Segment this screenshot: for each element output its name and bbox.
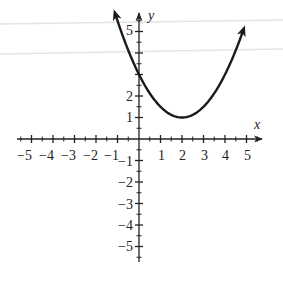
x-tick-label: −4	[39, 148, 54, 163]
x-axis-label: x	[253, 117, 261, 132]
y-tick-label: 5	[126, 23, 133, 38]
y-tick-label: −5	[118, 239, 133, 254]
x-tick-label: 4	[222, 148, 229, 163]
y-tick-label: 2	[126, 89, 133, 104]
x-tick-label: 1	[158, 148, 165, 163]
x-tick-label: 2	[179, 148, 186, 163]
parabola-curve	[115, 14, 243, 117]
y-tick-label: 1	[126, 110, 133, 125]
y-tick-label: −1	[118, 154, 133, 169]
y-axis-label: y	[146, 8, 155, 23]
x-tick-label: −2	[83, 148, 98, 163]
parabola-graph: x y −5 −4 −3 −2 −1 1 2 3 4 5 5 2 1 −1 −2…	[0, 0, 283, 287]
x-tick-label: 3	[201, 148, 208, 163]
x-tick-label: 5	[244, 148, 251, 163]
y-tick-label: −2	[118, 175, 133, 190]
x-tick-label: −1	[104, 148, 119, 163]
x-tick-label: −5	[17, 148, 32, 163]
x-tick-label: −3	[61, 148, 76, 163]
y-tick-label: −4	[118, 218, 133, 233]
y-tick-label: −3	[118, 197, 133, 212]
